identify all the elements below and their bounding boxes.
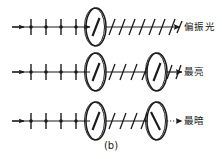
row-1-label: 偏振光 [184,21,215,32]
row-2-analyzer-axis-marker [154,63,161,81]
row-2-polarizer-axis-marker [93,63,100,81]
row-2-group [12,53,182,91]
row-1-polarizer-axis-marker [93,18,100,36]
row-3-analyzer-axis-marker [151,112,160,130]
row-3-group [12,102,182,140]
row-2-label: 最亮 [184,66,205,77]
figure-caption: (b) [0,140,222,152]
row-3-analyzer-disc [146,102,168,140]
row-1-group [12,8,182,46]
row-2-analyzer-disc [146,53,168,91]
row-3-label: 最暗 [184,115,205,126]
row-3-polarizer-axis-marker [93,112,100,130]
